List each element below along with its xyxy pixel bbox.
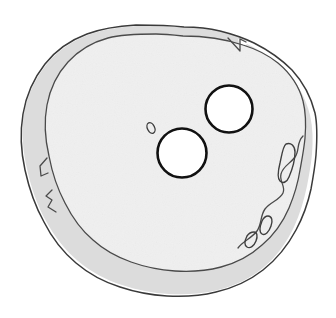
upper-right-void: [206, 86, 253, 133]
specimen-cross-section-drawing: [0, 0, 336, 318]
figure-canvas: [0, 0, 336, 318]
lower-left-void: [158, 129, 207, 178]
